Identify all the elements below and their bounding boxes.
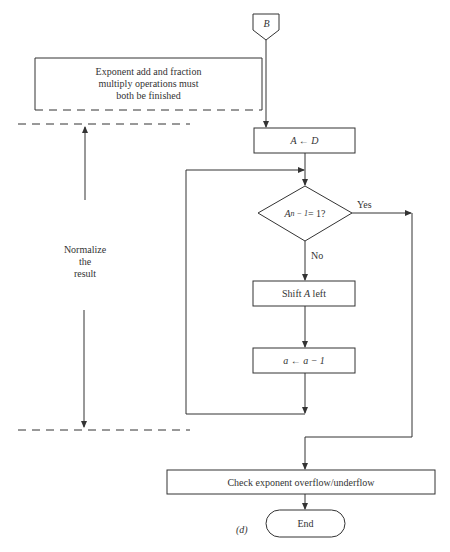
shift-text: left bbox=[313, 288, 326, 299]
step-shift-a-left: Shift A left bbox=[253, 281, 355, 306]
phase-label-line: Normalize bbox=[45, 244, 125, 256]
step-decrement-a: a ← a − 1 bbox=[253, 348, 355, 373]
decision-an-minus-1: An − 1 = 1? bbox=[262, 202, 348, 224]
no-label: No bbox=[311, 250, 323, 262]
shift-var: A bbox=[304, 288, 310, 299]
phase-label-line: result bbox=[45, 268, 125, 280]
shift-text: Shift bbox=[282, 288, 301, 299]
part-label: (d) bbox=[236, 524, 248, 536]
yes-label: Yes bbox=[357, 199, 372, 211]
decision-subscript: n − 1 bbox=[291, 209, 308, 218]
precondition-note: Exponent add and fraction multiply opera… bbox=[35, 66, 262, 102]
connector-b-label: B bbox=[253, 14, 280, 32]
precondition-line: multiply operations must bbox=[35, 78, 262, 90]
phase-label-normalize: Normalize the result bbox=[45, 244, 125, 280]
precondition-line: Exponent add and fraction bbox=[35, 66, 262, 78]
step-assign-a-from-d: A ← D bbox=[254, 128, 355, 153]
step-check-overflow: Check exponent overflow/underflow bbox=[167, 470, 435, 494]
phase-label-line: the bbox=[45, 256, 125, 268]
precondition-line: both be finished bbox=[35, 90, 262, 102]
decision-suffix: = 1? bbox=[308, 208, 326, 219]
terminal-end: End bbox=[266, 510, 345, 537]
